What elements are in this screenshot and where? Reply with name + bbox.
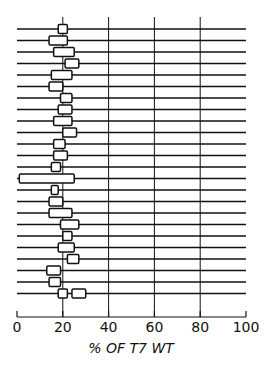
range-box bbox=[51, 71, 72, 80]
range-box bbox=[65, 59, 79, 68]
range-box bbox=[54, 151, 68, 160]
range-box bbox=[51, 186, 58, 195]
range-box bbox=[49, 36, 67, 45]
row-7 bbox=[17, 94, 246, 103]
range-box bbox=[19, 174, 74, 183]
row-24 bbox=[17, 289, 246, 298]
range-box bbox=[47, 266, 61, 275]
range-box bbox=[58, 105, 72, 114]
row-20 bbox=[17, 243, 246, 252]
data-rows bbox=[17, 25, 246, 299]
row-17 bbox=[17, 209, 246, 218]
range-box bbox=[58, 289, 67, 298]
row-6 bbox=[17, 82, 246, 91]
range-box bbox=[49, 82, 63, 91]
x-axis: 020406080100 bbox=[13, 311, 260, 335]
range-box bbox=[61, 220, 79, 229]
range-box bbox=[54, 140, 65, 149]
row-4 bbox=[17, 59, 246, 68]
row-21 bbox=[17, 255, 246, 264]
x-axis-label: % OF T7 WT bbox=[88, 340, 175, 356]
x-tick-label: 100 bbox=[233, 319, 260, 335]
x-tick-label: 40 bbox=[100, 319, 118, 335]
range-box bbox=[58, 25, 67, 34]
row-2 bbox=[17, 36, 246, 45]
row-12 bbox=[17, 151, 246, 160]
chart-canvas: 020406080100 % OF T7 WT bbox=[0, 0, 273, 366]
row-19 bbox=[17, 232, 246, 241]
range-box bbox=[54, 117, 72, 126]
x-tick-label: 0 bbox=[13, 319, 22, 335]
row-18 bbox=[17, 220, 246, 229]
row-10 bbox=[17, 128, 246, 137]
range-box bbox=[58, 243, 74, 252]
range-box bbox=[49, 197, 63, 206]
row-11 bbox=[17, 140, 246, 149]
x-tick-label: 80 bbox=[191, 319, 209, 335]
row-23 bbox=[17, 278, 246, 287]
row-14 bbox=[17, 174, 246, 183]
range-box bbox=[49, 209, 72, 218]
range-box bbox=[54, 48, 75, 57]
row-9 bbox=[17, 117, 246, 126]
range-box bbox=[72, 289, 86, 298]
range-box bbox=[63, 128, 77, 137]
range-box bbox=[63, 232, 72, 241]
row-15 bbox=[17, 186, 246, 195]
row-3 bbox=[17, 48, 246, 57]
range-box bbox=[49, 278, 60, 287]
row-1 bbox=[17, 25, 246, 34]
row-13 bbox=[17, 163, 246, 172]
row-8 bbox=[17, 105, 246, 114]
range-box bbox=[67, 255, 78, 264]
row-16 bbox=[17, 197, 246, 206]
row-5 bbox=[17, 71, 246, 80]
range-box bbox=[51, 163, 60, 172]
range-box bbox=[61, 94, 72, 103]
x-tick-label: 20 bbox=[54, 319, 72, 335]
row-22 bbox=[17, 266, 246, 275]
x-tick-label: 60 bbox=[145, 319, 163, 335]
